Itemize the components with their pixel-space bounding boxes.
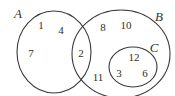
element-11: 11: [93, 72, 104, 83]
set-label-b: B: [155, 10, 163, 23]
element-2: 2: [78, 48, 84, 59]
element-4: 4: [58, 25, 64, 36]
element-8: 8: [100, 22, 106, 33]
element-3: 3: [116, 68, 122, 79]
element-10: 10: [121, 20, 132, 31]
element-12: 12: [129, 52, 140, 63]
element-1: 1: [38, 20, 44, 31]
element-7: 7: [28, 48, 34, 59]
set-label-a: A: [14, 7, 22, 20]
element-6: 6: [142, 68, 148, 79]
venn-diagram: A B C 1 4 7 2 8 10 11 12 3 6: [0, 0, 175, 96]
set-label-c: C: [150, 41, 159, 54]
